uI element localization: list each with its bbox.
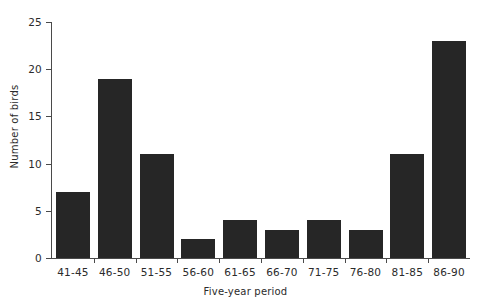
x-label-61-65: 61-65 xyxy=(219,266,261,278)
y-tick-15 xyxy=(46,116,51,117)
x-label-66-70: 66-70 xyxy=(261,266,303,278)
y-tick-20 xyxy=(46,69,51,70)
y-tick-label-text: 5 xyxy=(20,206,42,217)
x-label-71-75: 71-75 xyxy=(303,266,345,278)
x-label-41-45: 41-45 xyxy=(52,266,94,278)
x-label-56-60: 56-60 xyxy=(177,266,219,278)
x-axis-title: Five-year period xyxy=(0,286,491,297)
y-axis-title: Number of birds xyxy=(9,57,20,197)
bar-41-45 xyxy=(56,192,90,258)
bar-76-80 xyxy=(349,230,383,258)
y-tick-label-text: 15 xyxy=(20,111,42,122)
x-tick-5 xyxy=(261,259,262,263)
y-tick-0 xyxy=(46,258,51,259)
chart-figure: 0510152025 41-4546-5051-5556-6061-6566-7… xyxy=(0,0,491,306)
y-tick-10 xyxy=(46,164,51,165)
x-tick-2 xyxy=(136,259,137,263)
bar-71-75 xyxy=(307,220,341,258)
y-tick-label: 0 xyxy=(20,253,42,263)
x-label-51-55: 51-55 xyxy=(136,266,178,278)
y-tick-label-text: 25 xyxy=(20,17,42,28)
bar-56-60 xyxy=(181,239,215,258)
bar-66-70 xyxy=(265,230,299,258)
y-tick-25 xyxy=(46,22,51,23)
bar-81-85 xyxy=(390,154,424,258)
x-label-76-80: 76-80 xyxy=(345,266,387,278)
bar-46-50 xyxy=(98,79,132,258)
y-tick-label: 5 xyxy=(20,206,42,216)
bar-61-65 xyxy=(223,220,257,258)
x-tick-8 xyxy=(386,259,387,263)
y-tick-label: 15 xyxy=(20,111,42,121)
x-tick-9 xyxy=(428,259,429,263)
y-tick-label-text: 0 xyxy=(20,253,42,264)
x-tick-1 xyxy=(94,259,95,263)
y-tick-label-text: 20 xyxy=(20,64,42,75)
y-tick-label: 10 xyxy=(20,159,42,169)
x-tick-3 xyxy=(177,259,178,263)
x-tick-7 xyxy=(345,259,346,263)
plot-area xyxy=(52,22,470,258)
y-tick-label: 25 xyxy=(20,17,42,27)
x-label-86-90: 86-90 xyxy=(428,266,470,278)
bar-86-90 xyxy=(432,41,466,258)
x-label-46-50: 46-50 xyxy=(94,266,136,278)
y-tick-5 xyxy=(46,211,51,212)
x-tick-6 xyxy=(303,259,304,263)
bar-51-55 xyxy=(140,154,174,258)
x-label-81-85: 81-85 xyxy=(386,266,428,278)
x-tick-4 xyxy=(219,259,220,263)
y-tick-label: 20 xyxy=(20,64,42,74)
y-tick-label-text: 10 xyxy=(20,159,42,170)
